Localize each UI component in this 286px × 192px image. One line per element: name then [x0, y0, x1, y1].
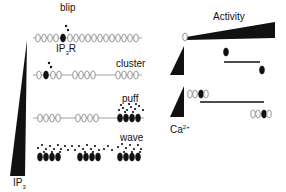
- blip-label: blip: [60, 3, 76, 13]
- activity-wedge: [186, 22, 275, 40]
- activity-title: Activity: [213, 12, 245, 22]
- row-puff: [33, 103, 144, 122]
- cluster-label: cluster: [116, 59, 145, 69]
- activation-ca-wedge: [170, 46, 184, 75]
- ca-gradient-wedge: [170, 86, 184, 117]
- row-wave: [37, 143, 142, 161]
- activity-graph: [170, 22, 275, 75]
- row-blip: [33, 25, 142, 42]
- calcium-axis-label: Ca2+: [170, 122, 190, 135]
- ip3-axis-label: IP3: [13, 178, 26, 192]
- calcium-graph: [170, 86, 271, 118]
- ip3-gradient-wedge: [10, 40, 27, 176]
- puff-label: puff: [122, 94, 139, 104]
- wave-label: wave: [120, 133, 143, 143]
- diagram-canvas: [0, 0, 286, 192]
- ip3r-label: IP3R: [56, 44, 76, 58]
